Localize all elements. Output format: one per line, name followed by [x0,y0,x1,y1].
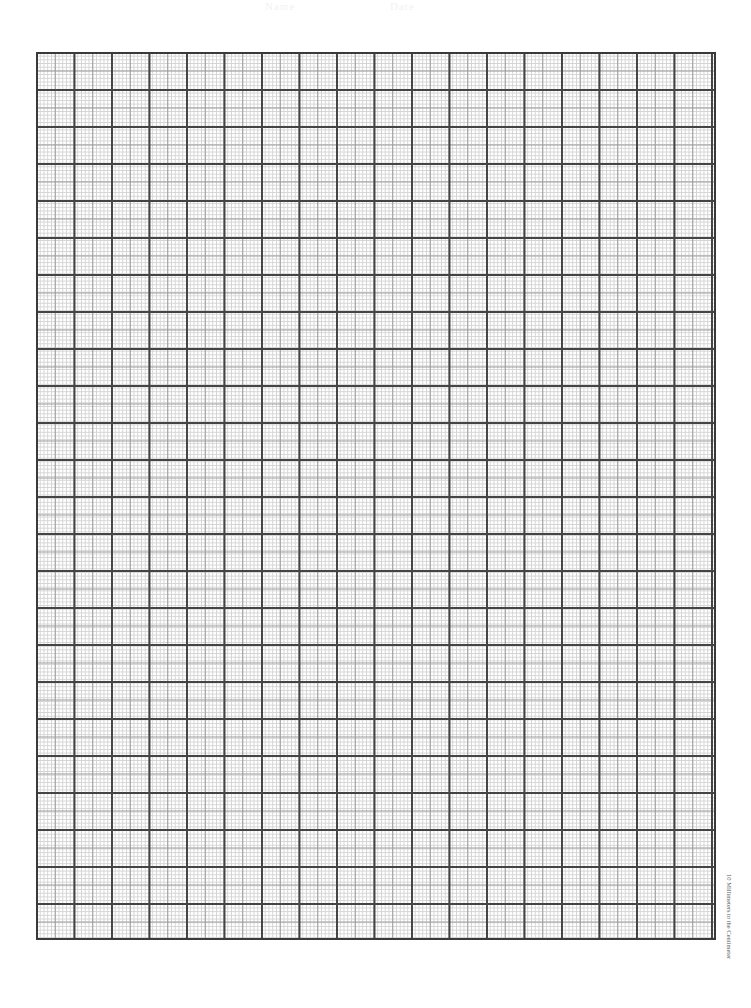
page-header: Name Date [0,0,751,20]
date-label: Date [390,0,415,12]
graph-paper-grid [36,52,716,940]
name-label: Name [265,0,295,12]
scale-label: 10 Millimeters to the Centimeter [719,874,733,940]
